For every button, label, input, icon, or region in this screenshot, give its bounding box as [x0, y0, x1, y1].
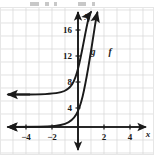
x-tick-label-minus2: −2 [47, 132, 57, 142]
coordinate-plane: −4 −2 2 4 16 12 8 4 y x g f [0, 0, 154, 155]
y-tick-label-12: 12 [63, 51, 73, 61]
x-axis-label: x [145, 129, 151, 139]
x-tick-label-2: 2 [102, 132, 107, 142]
x-tick-label-minus4: −4 [21, 132, 31, 142]
x-tick-label-4: 4 [128, 132, 133, 142]
curve-label-g: g [90, 47, 96, 57]
y-tick-label-4: 4 [68, 103, 73, 113]
y-tick-label-16: 16 [63, 25, 73, 35]
exponential-functions-figure: −4 −2 2 4 16 12 8 4 y x g f [0, 0, 154, 155]
